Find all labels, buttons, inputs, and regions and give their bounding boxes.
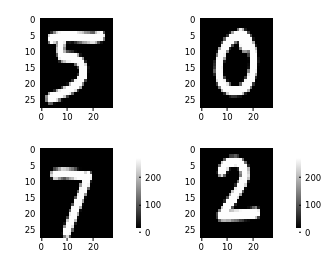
tick-mark: [40, 99, 43, 100]
tick-mark: [139, 232, 142, 233]
xtick-label: 10: [222, 108, 233, 121]
xtick-label: 10: [62, 108, 73, 121]
xtick-label: 20: [88, 238, 99, 251]
colorbar-tick-label: 100: [141, 201, 161, 210]
tick-mark: [200, 67, 203, 68]
tick-mark: [67, 108, 68, 111]
ytick-label: 20: [185, 80, 200, 89]
panel-digit-5: 0 5 10 15 20 25 0 10 20: [40, 18, 113, 108]
ytick-label: 20: [25, 210, 40, 219]
ytick-label: 15: [25, 64, 40, 73]
colorbar-gradient: [296, 158, 301, 228]
xtick-label: 0: [199, 108, 204, 121]
tick-mark: [139, 177, 142, 178]
digit-7-canvas: [40, 148, 113, 238]
tick-mark: [227, 238, 228, 241]
mnist-digit-grid-figure: 0 5 10 15 20 25 0 10 20 0 5 10 15 20 25 …: [0, 0, 331, 269]
ytick-label: 0: [30, 15, 40, 24]
colorbar-digit-7: 200 100 0: [136, 158, 141, 228]
colorbar-tick-label: 0: [301, 228, 310, 237]
tick-mark: [200, 35, 203, 36]
tick-mark: [201, 108, 202, 111]
tick-mark: [40, 51, 43, 52]
xtick-label: 0: [39, 238, 44, 251]
tick-mark: [200, 51, 203, 52]
ytick-label: 15: [185, 194, 200, 203]
ytick-label: 25: [25, 96, 40, 105]
xtick-label: 20: [248, 108, 259, 121]
tick-mark: [139, 205, 142, 206]
tick-mark: [253, 238, 254, 241]
xtick-label: 10: [62, 238, 73, 251]
panel-digit-2: 0 5 10 15 20 25 0 10 20 200 100 0: [200, 148, 273, 238]
ytick-label: 20: [25, 80, 40, 89]
ytick-label: 10: [25, 48, 40, 57]
ytick-label: 25: [25, 226, 40, 235]
tick-mark: [200, 165, 203, 166]
tick-mark: [40, 229, 43, 230]
ytick-label: 5: [30, 161, 40, 170]
tick-mark: [227, 108, 228, 111]
ytick-label: 25: [185, 96, 200, 105]
tick-mark: [40, 181, 43, 182]
digit-0-canvas: [200, 18, 273, 108]
xtick-label: 10: [222, 238, 233, 251]
ytick-label: 20: [185, 210, 200, 219]
ytick-label: 10: [185, 178, 200, 187]
digit-2-canvas: [200, 148, 273, 238]
xtick-label: 20: [248, 238, 259, 251]
xtick-label: 0: [199, 238, 204, 251]
ytick-label: 10: [25, 178, 40, 187]
ytick-label: 5: [30, 31, 40, 40]
tick-mark: [41, 108, 42, 111]
ytick-label: 0: [190, 15, 200, 24]
tick-mark: [200, 197, 203, 198]
tick-mark: [200, 181, 203, 182]
tick-mark: [200, 149, 203, 150]
colorbar-tick-label: 0: [141, 228, 150, 237]
colorbar-tick-label: 200: [301, 173, 321, 182]
digit-image-2: 0 5 10 15 20 25 0 10 20: [200, 148, 273, 238]
tick-mark: [200, 213, 203, 214]
tick-mark: [40, 35, 43, 36]
ytick-label: 15: [25, 194, 40, 203]
tick-mark: [41, 238, 42, 241]
digit-5-canvas: [40, 18, 113, 108]
tick-mark: [40, 197, 43, 198]
digit-image-5: 0 5 10 15 20 25 0 10 20: [40, 18, 113, 108]
ytick-label: 10: [185, 48, 200, 57]
tick-mark: [200, 83, 203, 84]
ytick-label: 25: [185, 226, 200, 235]
tick-mark: [40, 67, 43, 68]
tick-mark: [40, 149, 43, 150]
tick-mark: [67, 238, 68, 241]
tick-mark: [200, 99, 203, 100]
colorbar-gradient: [136, 158, 141, 228]
digit-image-0: 0 5 10 15 20 25 0 10 20: [200, 18, 273, 108]
tick-mark: [93, 108, 94, 111]
digit-image-7: 0 5 10 15 20 25 0 10 20: [40, 148, 113, 238]
ytick-label: 0: [30, 145, 40, 154]
tick-mark: [200, 19, 203, 20]
ytick-label: 5: [190, 161, 200, 170]
ytick-label: 5: [190, 31, 200, 40]
xtick-label: 20: [88, 108, 99, 121]
tick-mark: [40, 213, 43, 214]
colorbar-tick-label: 100: [301, 201, 321, 210]
xtick-label: 0: [39, 108, 44, 121]
panel-digit-7: 0 5 10 15 20 25 0 10 20 200 100 0: [40, 148, 113, 238]
tick-mark: [40, 165, 43, 166]
tick-mark: [299, 232, 302, 233]
ytick-label: 15: [185, 64, 200, 73]
colorbar-digit-2: 200 100 0: [296, 158, 301, 228]
tick-mark: [40, 19, 43, 20]
tick-mark: [201, 238, 202, 241]
tick-mark: [299, 205, 302, 206]
tick-mark: [299, 177, 302, 178]
tick-mark: [200, 229, 203, 230]
tick-mark: [253, 108, 254, 111]
panel-digit-0: 0 5 10 15 20 25 0 10 20: [200, 18, 273, 108]
ytick-label: 0: [190, 145, 200, 154]
colorbar-tick-label: 200: [141, 173, 161, 182]
tick-mark: [93, 238, 94, 241]
